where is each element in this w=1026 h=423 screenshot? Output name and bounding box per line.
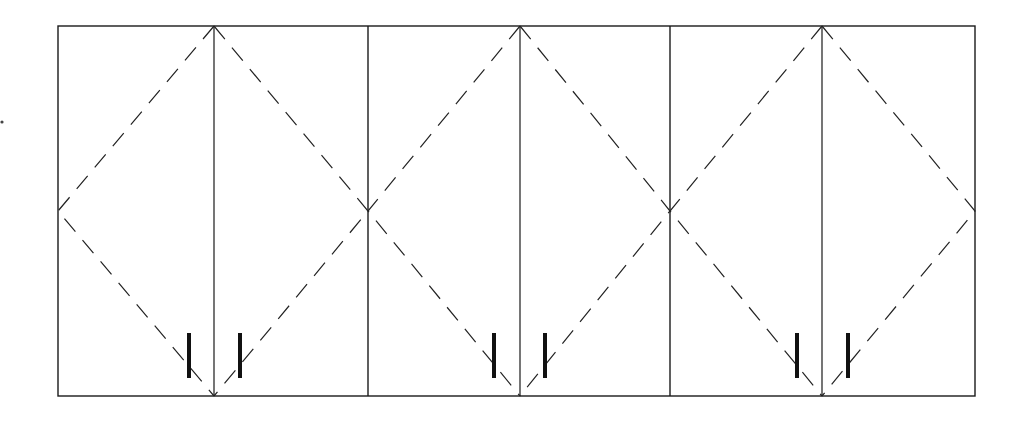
cabinet-2 [368, 26, 670, 396]
right-door-swing-lines [822, 26, 975, 396]
cabinet-elevation-drawing [0, 0, 1026, 423]
cabinet-outer-frame [58, 26, 975, 396]
right-door-swing-lines [520, 26, 670, 396]
right-door-swing-lines [214, 26, 368, 396]
left-door-swing-lines [670, 26, 822, 396]
cabinet-3 [670, 26, 975, 396]
cabinets [58, 26, 975, 396]
cabinet-1 [58, 26, 368, 396]
left-door-swing-lines [368, 26, 520, 396]
scan-artifact-dot [0, 120, 3, 123]
outer-frame-rect [58, 26, 975, 396]
